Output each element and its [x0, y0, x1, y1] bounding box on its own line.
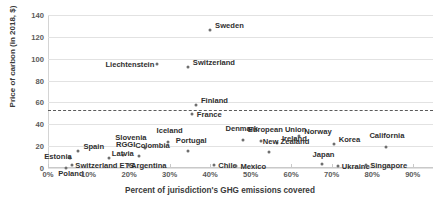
y-tick-label: 60 — [36, 98, 44, 107]
data-point-label: Finland — [201, 97, 228, 105]
data-point[interactable] — [186, 149, 189, 152]
x-tick-label: 70% — [324, 170, 339, 179]
data-point[interactable] — [235, 164, 238, 167]
x-tick-mark — [332, 164, 333, 168]
data-point[interactable] — [156, 63, 159, 66]
data-point-label: Japan — [313, 151, 335, 159]
y-axis-line — [48, 15, 49, 168]
data-point-label: France — [197, 111, 222, 119]
reference-line — [48, 110, 433, 111]
plot-area: SwedenSwitzerlandLiechtensteinFinlandFra… — [48, 15, 433, 168]
data-point[interactable] — [77, 149, 80, 152]
data-point-label: New Zealand — [263, 138, 309, 146]
gridline — [48, 102, 433, 103]
data-point-label: California — [369, 132, 404, 140]
data-point-label: Colombia — [135, 142, 170, 150]
data-point[interactable] — [209, 29, 212, 32]
data-point[interactable] — [385, 146, 388, 149]
data-point-label: Norway — [304, 128, 331, 136]
data-point[interactable] — [365, 163, 368, 166]
carbon-price-scatter-chart: Price of carbon (in 2018, $) 02040608010… — [0, 0, 440, 205]
x-tick-label: 80% — [365, 170, 380, 179]
data-point[interactable] — [336, 164, 339, 167]
x-tick-mark — [48, 164, 49, 168]
data-point-label: Liechtenstein — [105, 61, 154, 69]
data-point-label: Switzerland ETS — [75, 162, 134, 170]
data-point[interactable] — [71, 163, 74, 166]
data-point[interactable] — [194, 103, 197, 106]
data-point-label: Latvia — [112, 150, 134, 158]
data-point[interactable] — [241, 138, 244, 141]
x-tick-mark — [170, 164, 171, 168]
x-tick-mark — [291, 164, 292, 168]
y-axis-ticks: 020406080100120140 — [0, 15, 44, 168]
gridline — [48, 37, 433, 38]
data-point-label: European Union — [248, 126, 307, 134]
data-point[interactable] — [138, 154, 141, 157]
data-point[interactable] — [320, 162, 323, 165]
data-point-label: Portugal — [176, 137, 207, 145]
x-tick-mark — [210, 164, 211, 168]
data-point[interactable] — [107, 157, 110, 160]
x-tick-label: 60% — [284, 170, 299, 179]
x-tick-label: 40% — [202, 170, 217, 179]
gridline — [48, 146, 433, 147]
y-tick-label: 40 — [36, 120, 44, 129]
y-tick-label: 80 — [36, 76, 44, 85]
data-point-label: Estonia — [44, 153, 71, 161]
y-tick-label: 100 — [31, 54, 44, 63]
x-tick-label: 0% — [43, 170, 54, 179]
data-point[interactable] — [267, 150, 270, 153]
x-tick-label: 10% — [81, 170, 96, 179]
data-point-label: Poland — [58, 170, 83, 178]
data-point-label: Argentina — [131, 162, 166, 170]
data-point[interactable] — [332, 142, 335, 145]
data-point-label: Sweden — [215, 22, 244, 30]
data-point-label: Spain — [83, 143, 104, 151]
x-tick-label: 20% — [121, 170, 136, 179]
data-point[interactable] — [186, 66, 189, 69]
gridline — [48, 81, 433, 82]
x-tick-label: 50% — [243, 170, 258, 179]
data-point-label: Iceland — [157, 127, 183, 135]
y-tick-label: 20 — [36, 142, 44, 151]
x-tick-mark — [413, 164, 414, 168]
data-point-label: Switzerland — [193, 59, 235, 67]
data-point-label: RGGI — [116, 141, 135, 149]
x-axis-title: Percent of jurisdiction's GHG emissions … — [0, 186, 440, 195]
x-tick-label: 90% — [405, 170, 420, 179]
data-point-label: Korea — [339, 136, 361, 144]
data-point-label: Singapore — [370, 162, 407, 170]
data-point[interactable] — [213, 163, 216, 166]
x-tick-label: 30% — [162, 170, 177, 179]
data-point[interactable] — [259, 139, 262, 142]
data-point-label: Chile — [218, 162, 237, 170]
gridline — [48, 15, 433, 16]
y-tick-label: 120 — [31, 32, 44, 41]
y-tick-label: 140 — [31, 11, 44, 20]
data-point[interactable] — [190, 113, 193, 116]
